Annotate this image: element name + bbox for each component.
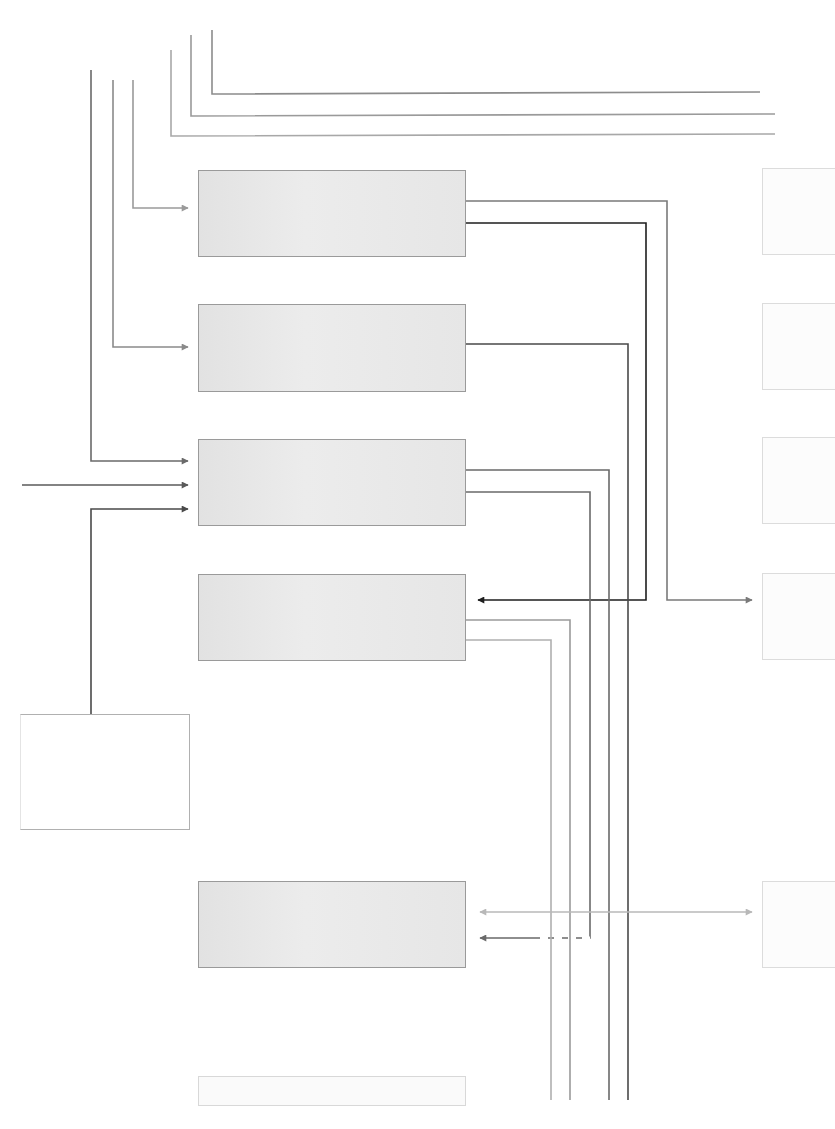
block-2 [198, 304, 466, 392]
block-diagram [0, 0, 835, 1129]
connector-out-block-1b [466, 223, 646, 600]
connector-out-block-4a [466, 620, 570, 1100]
connector-in-block-1 [133, 80, 188, 208]
ext-5 [762, 881, 835, 968]
ext-3 [762, 437, 835, 524]
ext-2 [762, 303, 835, 390]
connector-top-bus-2 [191, 35, 775, 116]
connector-in-block-3a [91, 70, 188, 461]
block-1 [198, 170, 466, 257]
connector-out-block-4b [466, 640, 551, 1100]
ext-4 [762, 573, 835, 660]
ext-1 [762, 168, 835, 255]
block-left [20, 714, 190, 830]
block-4 [198, 574, 466, 661]
connector-out-block-3b [466, 492, 590, 938]
connector-in-block-3c [91, 509, 188, 714]
connector-out-block-3a [466, 470, 609, 1100]
connector-in-block-2 [113, 80, 188, 347]
block-3 [198, 439, 466, 526]
block-5 [198, 881, 466, 968]
block-6 [198, 1076, 466, 1106]
connector-out-block-2 [466, 344, 628, 1100]
connector-top-bus-1 [212, 30, 760, 94]
